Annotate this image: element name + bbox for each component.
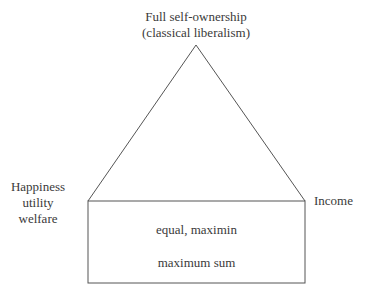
apex-label-line-1: Full self-ownership xyxy=(0,9,373,25)
right-corner-label: Income xyxy=(314,193,353,209)
apex-label: Full self-ownership (classical liberalis… xyxy=(0,9,373,41)
apex-label-line-2: (classical liberalism) xyxy=(0,25,373,41)
triangle xyxy=(88,45,305,201)
diagram-shapes xyxy=(0,0,373,296)
box-text-equal-maximin: equal, maximin xyxy=(88,222,305,238)
left-label-line-2: utility xyxy=(0,195,76,211)
left-corner-label: Happiness utility welfare xyxy=(0,179,76,227)
left-label-line-1: Happiness xyxy=(0,179,76,195)
left-label-line-3: welfare xyxy=(0,211,76,227)
box-text-maximum-sum: maximum sum xyxy=(88,255,305,271)
